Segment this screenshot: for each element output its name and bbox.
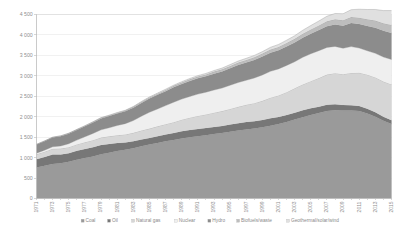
y-tick-label: 3 000 xyxy=(20,73,33,79)
y-tick-label: 1 500 xyxy=(20,134,33,140)
x-tick-label: 1989 xyxy=(178,201,184,212)
x-tick-label: 2005 xyxy=(307,201,313,212)
x-tick-label: 2013 xyxy=(372,201,378,212)
x-tick-label: 1981 xyxy=(114,201,120,212)
legend-swatch-nuclear xyxy=(174,219,177,222)
legend-label-coal: Coal xyxy=(86,218,96,223)
y-tick-label: 3 500 xyxy=(20,52,33,58)
y-tick-label: 500 xyxy=(24,175,33,181)
x-tick-label: 1985 xyxy=(146,201,152,212)
legend-label-hydro: Hydro xyxy=(212,218,225,223)
legend-label-oil: Oil xyxy=(112,218,118,223)
legend-label-nuclear: Nuclear xyxy=(179,218,196,223)
x-tick-label: 1997 xyxy=(243,201,249,212)
legend-swatch-natural-gas xyxy=(132,219,135,222)
x-tick-label: 2015 xyxy=(388,201,394,212)
x-tick-label: 1971 xyxy=(33,201,39,212)
y-tick-label: 4 000 xyxy=(20,32,33,38)
legend-label-natural-gas: Natural gas xyxy=(136,218,161,223)
x-tick-label: 1979 xyxy=(97,201,103,212)
y-tick-label: 4 500 xyxy=(20,11,33,17)
legend-label-biofuels-waste: Biofuels/waste xyxy=(241,218,272,223)
x-tick-label: 2001 xyxy=(275,201,281,212)
x-tick-label: 2007 xyxy=(323,201,329,212)
legend-swatch-biofuels-waste xyxy=(237,219,240,222)
chart-canvas: 05001 0001 5002 0002 5003 0003 5004 0004… xyxy=(0,0,404,237)
y-tick-label: 2 000 xyxy=(20,114,33,120)
x-tick-label: 1975 xyxy=(65,201,71,212)
y-tick-label: 2 500 xyxy=(20,93,33,99)
x-tick-label: 1999 xyxy=(259,201,265,212)
x-tick-label: 1983 xyxy=(130,201,136,212)
legend-swatch-hydro xyxy=(208,219,211,222)
x-tick-label: 1987 xyxy=(162,201,168,212)
x-tick-label: 1973 xyxy=(49,201,55,212)
legend-swatch-geothermal-solar-wind xyxy=(287,219,290,222)
x-tick-label: 2003 xyxy=(291,201,297,212)
y-tick-label: 1 000 xyxy=(20,155,33,161)
x-tick-label: 2011 xyxy=(356,201,362,212)
x-tick-label: 2009 xyxy=(339,201,345,212)
stacked-area-chart: 05001 0001 5002 0002 5003 0003 5004 0004… xyxy=(0,0,404,237)
x-tick-label: 1993 xyxy=(210,201,216,212)
legend-label-geothermal-solar-wind: Geothermal/solar/wind xyxy=(291,218,339,223)
y-tick-label: 0 xyxy=(30,195,33,201)
x-tick-label: 1995 xyxy=(226,201,232,212)
legend-swatch-coal xyxy=(81,219,84,222)
legend-swatch-oil xyxy=(108,219,111,222)
x-tick-label: 1991 xyxy=(194,201,200,212)
x-tick-label: 1977 xyxy=(81,201,87,212)
